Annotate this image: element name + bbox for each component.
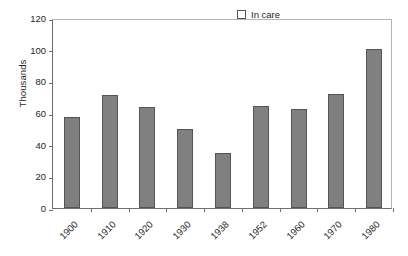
legend-label-in-care: In care xyxy=(251,9,280,20)
y-tick-label: 20 xyxy=(35,171,46,182)
bar-chart: Thousands 020406080100120 19001910192019… xyxy=(0,0,408,256)
y-tick-label: 0 xyxy=(41,203,46,214)
bar xyxy=(366,49,382,208)
y-tick-label: 40 xyxy=(35,140,46,151)
x-tick-mark xyxy=(166,208,167,212)
y-tick-mark xyxy=(49,51,53,52)
bar xyxy=(139,107,155,208)
y-tick-label: 120 xyxy=(30,13,46,24)
y-axis-title: Thousands xyxy=(17,24,28,144)
y-tick-mark xyxy=(49,83,53,84)
x-tick-mark xyxy=(393,208,394,212)
x-tick-label: 1900 xyxy=(27,219,80,256)
x-tick-mark xyxy=(91,208,92,212)
y-tick-mark xyxy=(49,178,53,179)
bar xyxy=(177,129,193,208)
x-tick-mark xyxy=(280,208,281,212)
y-tick-label: 100 xyxy=(30,45,46,56)
x-tick-mark xyxy=(355,208,356,212)
y-tick-mark xyxy=(49,115,53,116)
y-tick-mark xyxy=(49,20,53,21)
bar xyxy=(102,95,118,208)
chart-legend: In care xyxy=(237,9,280,20)
x-tick-mark xyxy=(317,208,318,212)
legend-swatch-in-care xyxy=(237,10,246,19)
x-tick-mark xyxy=(129,208,130,212)
y-tick-mark xyxy=(49,146,53,147)
x-tick-mark xyxy=(242,208,243,212)
x-tick-mark xyxy=(204,208,205,212)
bar xyxy=(328,94,344,208)
y-tick-mark xyxy=(49,210,53,211)
y-tick-label: 60 xyxy=(35,108,46,119)
bar xyxy=(64,117,80,208)
bar xyxy=(291,109,307,208)
plot-area: 020406080100120 190019101920193019381952… xyxy=(52,19,392,209)
y-tick-label: 80 xyxy=(35,76,46,87)
bar xyxy=(215,153,231,208)
bar xyxy=(253,106,269,208)
